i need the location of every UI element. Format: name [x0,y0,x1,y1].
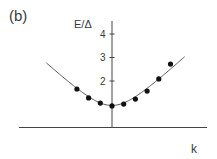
data-point [98,100,103,105]
data-point [145,89,150,94]
y-tick-label: 3 [100,52,106,63]
data-point [156,76,161,81]
data-point [74,86,79,91]
fit-curve [46,57,184,106]
data-points [74,61,173,108]
panel-label: (b) [9,7,27,24]
y-tick-label: 2 [100,76,106,87]
figure-panel: (b) E/Δ k 234 [0,0,217,159]
data-point [86,95,91,100]
y-axis-label: E/Δ [74,18,92,30]
dispersion-chart: (b) E/Δ k 234 [0,0,217,159]
y-tick-label: 4 [100,29,106,40]
data-point [121,101,126,106]
x-axis-label: k [191,142,198,156]
data-point [109,103,114,108]
data-point [133,96,138,101]
data-point [168,61,173,66]
